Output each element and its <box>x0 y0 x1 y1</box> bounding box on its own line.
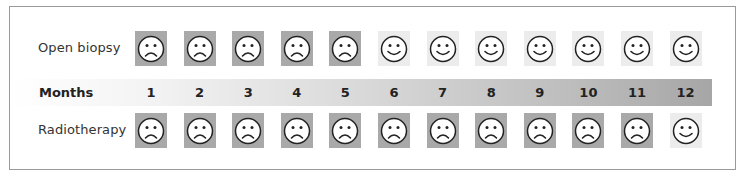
sad-face-icon <box>428 116 458 146</box>
sad-face-cell <box>475 113 507 148</box>
month-label: 6 <box>379 85 409 100</box>
sad-face-cell <box>232 31 264 66</box>
happy-face-cell <box>378 31 410 66</box>
month-label: 1 <box>136 85 166 100</box>
happy-face-cell <box>475 31 507 66</box>
sad-face-cell <box>135 113 167 148</box>
month-label: 8 <box>476 85 506 100</box>
month-label: 5 <box>330 85 360 100</box>
smiley-face-icon <box>622 34 652 64</box>
sad-face-icon <box>476 116 506 146</box>
sad-face-cell <box>378 113 410 148</box>
sad-face-cell <box>329 113 361 148</box>
sad-face-icon <box>330 34 360 64</box>
sad-face-icon <box>185 34 215 64</box>
sad-face-icon <box>379 116 409 146</box>
sad-face-icon <box>622 116 652 146</box>
sad-face-cell <box>621 113 653 148</box>
row-label-radiotherapy: Radiotherapy <box>38 122 126 137</box>
sad-face-icon <box>185 116 215 146</box>
sad-face-icon <box>573 116 603 146</box>
month-label: 4 <box>282 85 312 100</box>
row-label-open-biopsy: Open biopsy <box>38 40 121 55</box>
sad-face-icon <box>136 34 166 64</box>
month-label: 12 <box>671 85 701 100</box>
sad-face-icon <box>136 116 166 146</box>
smiley-face-icon <box>671 34 701 64</box>
sad-face-cell <box>281 113 313 148</box>
sad-face-cell <box>524 113 556 148</box>
sad-face-icon <box>330 116 360 146</box>
smiley-face-icon <box>525 34 555 64</box>
smiley-face-icon <box>428 34 458 64</box>
sad-face-cell <box>329 31 361 66</box>
happy-face-cell <box>427 31 459 66</box>
sad-face-icon <box>282 34 312 64</box>
sad-face-icon <box>525 116 555 146</box>
happy-face-cell <box>524 31 556 66</box>
smiley-face-icon <box>671 116 701 146</box>
month-label: 11 <box>622 85 652 100</box>
happy-face-cell <box>670 113 702 148</box>
sad-face-icon <box>233 116 263 146</box>
happy-face-cell <box>572 31 604 66</box>
month-label: 10 <box>573 85 603 100</box>
sad-face-cell <box>184 113 216 148</box>
smiley-face-icon <box>476 34 506 64</box>
happy-face-cell <box>621 31 653 66</box>
sad-face-cell <box>184 31 216 66</box>
sad-face-icon <box>233 34 263 64</box>
month-label: 7 <box>428 85 458 100</box>
sad-face-icon <box>282 116 312 146</box>
smiley-face-icon <box>573 34 603 64</box>
months-label: Months <box>39 85 93 100</box>
months-band <box>10 79 712 106</box>
month-label: 2 <box>185 85 215 100</box>
sad-face-cell <box>572 113 604 148</box>
smiley-face-icon <box>379 34 409 64</box>
sad-face-cell <box>232 113 264 148</box>
sad-face-cell <box>281 31 313 66</box>
happy-face-cell <box>670 31 702 66</box>
sad-face-cell <box>427 113 459 148</box>
month-label: 3 <box>233 85 263 100</box>
month-label: 9 <box>525 85 555 100</box>
sad-face-cell <box>135 31 167 66</box>
